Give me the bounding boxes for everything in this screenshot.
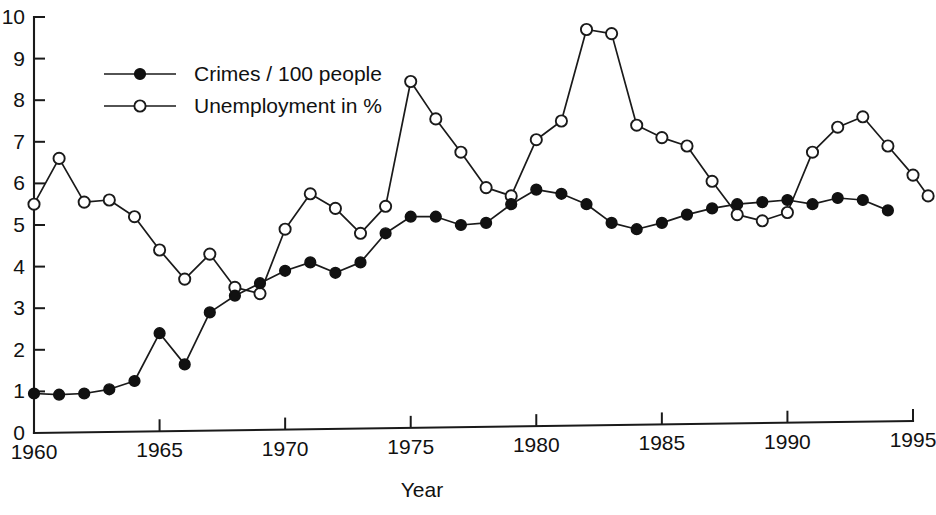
data-point-marker <box>28 199 39 210</box>
data-point-marker <box>330 267 341 278</box>
data-point-marker <box>54 153 65 164</box>
y-tick-label: 6 <box>13 171 25 194</box>
legend-open-circle-icon <box>134 100 145 111</box>
data-point-marker <box>430 211 441 222</box>
data-point-marker <box>255 278 266 289</box>
data-point-marker <box>807 147 818 158</box>
data-point-marker <box>405 76 416 87</box>
x-tick-label: 1970 <box>262 437 309 460</box>
x-tick-label: 1990 <box>764 430 811 453</box>
series-unemployment <box>28 24 933 299</box>
x-axis-title: Year <box>401 478 443 501</box>
data-point-marker <box>430 113 441 124</box>
data-point-marker <box>204 249 215 260</box>
data-point-marker <box>857 111 868 122</box>
legend-filled-circle-icon <box>135 69 146 80</box>
y-tick-label: 9 <box>13 47 25 70</box>
data-point-marker <box>481 182 492 193</box>
data-point-marker <box>531 134 542 145</box>
data-point-marker <box>907 170 918 181</box>
data-point-marker <box>355 228 366 239</box>
data-point-marker <box>531 184 542 195</box>
data-point-marker <box>883 205 894 216</box>
data-point-marker <box>656 132 667 143</box>
data-point-marker <box>179 274 190 285</box>
y-axis-ticks: 012345678910 <box>2 5 45 444</box>
data-point-marker <box>305 188 316 199</box>
data-point-marker <box>129 376 140 387</box>
x-tick-label: 1985 <box>638 431 685 454</box>
data-point-marker <box>581 199 592 210</box>
data-point-marker <box>757 197 768 208</box>
data-point-marker <box>732 209 743 220</box>
data-point-marker <box>631 120 642 131</box>
data-point-marker <box>380 201 391 212</box>
data-point-marker <box>631 224 642 235</box>
y-tick-label: 4 <box>13 255 25 278</box>
data-point-marker <box>923 190 934 201</box>
data-point-marker <box>556 188 567 199</box>
y-tick-label: 8 <box>13 88 25 111</box>
data-point-marker <box>682 209 693 220</box>
x-tick-label: 1980 <box>513 433 560 456</box>
data-point-marker <box>707 203 718 214</box>
data-point-marker <box>305 257 316 268</box>
data-point-marker <box>707 176 718 187</box>
data-point-marker <box>757 215 768 226</box>
data-point-marker <box>832 122 843 133</box>
data-point-marker <box>79 197 90 208</box>
data-point-marker <box>330 203 341 214</box>
data-point-marker <box>104 384 115 395</box>
data-point-marker <box>179 359 190 370</box>
y-tick-label: 5 <box>13 213 25 236</box>
data-point-marker <box>380 228 391 239</box>
data-point-marker <box>104 194 115 205</box>
data-point-marker <box>556 115 567 126</box>
chart-container: 012345678910 196019651970197519801985199… <box>0 0 936 515</box>
data-point-marker <box>506 199 517 210</box>
data-point-marker <box>29 388 40 399</box>
data-point-marker <box>782 195 793 206</box>
x-tick-label: 1975 <box>387 435 434 458</box>
data-point-marker <box>832 193 843 204</box>
data-point-marker <box>882 140 893 151</box>
data-point-marker <box>606 28 617 39</box>
y-tick-label: 1 <box>13 379 25 402</box>
data-point-marker <box>782 207 793 218</box>
x-tick-label: 1960 <box>11 440 58 463</box>
y-tick-label: 10 <box>2 5 25 28</box>
data-point-marker <box>129 211 140 222</box>
data-point-marker <box>732 199 743 210</box>
x-tick-label: 1965 <box>136 438 183 461</box>
data-point-marker <box>405 211 416 222</box>
data-point-marker <box>79 388 90 399</box>
legend-label: Crimes / 100 people <box>194 62 382 85</box>
x-tick-label: 1995 <box>890 428 936 451</box>
x-axis-ticks: 19601965197019751980198519901995 <box>11 409 936 463</box>
legend: Crimes / 100 peopleUnemployment in % <box>104 62 382 117</box>
legend-label: Unemployment in % <box>194 94 382 117</box>
data-point-marker <box>857 195 868 206</box>
data-point-marker <box>54 389 65 400</box>
data-point-marker <box>280 224 291 235</box>
data-point-marker <box>456 220 467 231</box>
data-point-marker <box>154 244 165 255</box>
data-point-marker <box>230 290 241 301</box>
data-point-marker <box>606 218 617 229</box>
y-tick-label: 3 <box>13 296 25 319</box>
data-point-marker <box>481 218 492 229</box>
data-point-marker <box>355 257 366 268</box>
data-point-marker <box>254 288 265 299</box>
y-tick-label: 7 <box>13 130 25 153</box>
data-point-marker <box>807 199 818 210</box>
data-point-marker <box>455 147 466 158</box>
data-point-marker <box>204 307 215 318</box>
line-chart: 012345678910 196019651970197519801985199… <box>0 0 936 515</box>
y-tick-label: 2 <box>13 338 25 361</box>
data-point-marker <box>657 218 668 229</box>
series-polyline <box>34 30 928 294</box>
data-point-marker <box>581 24 592 35</box>
data-point-marker <box>154 328 165 339</box>
data-point-marker <box>681 140 692 151</box>
data-point-marker <box>280 265 291 276</box>
